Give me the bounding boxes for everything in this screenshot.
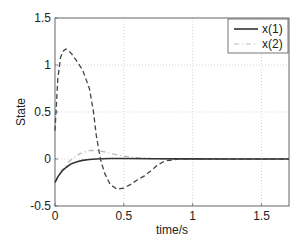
x-axis-label: time/s	[156, 223, 188, 237]
y-axis-label: State	[14, 98, 28, 126]
y-tick-label: 1	[44, 58, 51, 72]
y-tick-label: 1.5	[34, 11, 51, 25]
legend-label-x1: x(1)	[262, 22, 283, 36]
y-axis-ticks: -0.500.511.5	[30, 11, 58, 213]
line-chart: -0.500.511.5 00.511.5 time/s State x(1) …	[0, 0, 302, 250]
legend: x(1) x(2)	[228, 19, 288, 53]
y-tick-label: 0	[44, 152, 51, 166]
x-tick-label: 1	[189, 209, 196, 223]
x-tick-label: 0.5	[115, 209, 132, 223]
series-line-x1	[55, 159, 289, 183]
y-tick-label: -0.5	[30, 199, 51, 213]
x-tick-label: 0	[52, 209, 59, 223]
series-line-x2	[55, 151, 289, 183]
x-tick-label: 1.5	[253, 209, 270, 223]
series-line-x3	[55, 49, 289, 189]
legend-label-x2: x(2)	[262, 37, 283, 51]
y-tick-label: 0.5	[34, 105, 51, 119]
series-lines	[55, 49, 289, 189]
